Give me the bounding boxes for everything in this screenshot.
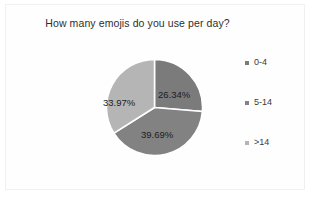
legend-item-5-14[interactable]: 5-14 [245,97,305,137]
legend-item-label: >14 [254,137,269,148]
chart-title: How many emojis do you use per day? [0,17,275,29]
pie-slice [155,59,203,111]
slice-label-0-4: 26.34% [158,89,190,100]
pie-chart-screenshot: How many emojis do you use per day? 26.3… [0,0,311,198]
square-swatch-icon [245,101,249,105]
legend-item-label: 5-14 [254,97,272,108]
square-swatch-icon [245,141,249,145]
pie-chart: 26.34% 39.69% 33.97% [106,59,203,156]
legend-item-label: 0-4 [254,57,267,68]
slice-label-5-14: 39.69% [141,129,173,140]
chart-legend: 0-4 5-14 >14 [245,57,305,177]
legend-item-0-4[interactable]: 0-4 [245,57,305,97]
legend-item-over-14[interactable]: >14 [245,137,305,177]
square-swatch-icon [245,61,249,65]
slice-label-over-14: 33.97% [103,97,135,108]
